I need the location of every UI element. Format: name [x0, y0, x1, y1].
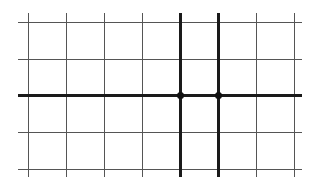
grid-diagram	[0, 0, 316, 183]
intersection-point	[177, 92, 184, 99]
intersection-point	[215, 92, 222, 99]
bold-grid-lines	[18, 13, 302, 177]
grid-svg	[0, 0, 316, 183]
